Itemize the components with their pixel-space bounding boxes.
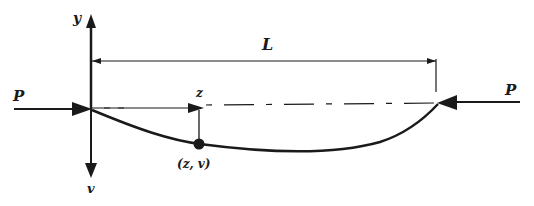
length-label: L bbox=[261, 35, 273, 54]
load-left-label: P bbox=[12, 87, 25, 105]
load-right-label: P bbox=[504, 81, 517, 99]
z-axis-arrow-icon bbox=[188, 103, 204, 113]
load-left-arrow-icon bbox=[72, 102, 92, 116]
length-arrow-right-icon bbox=[427, 58, 436, 64]
length-arrow-left-icon bbox=[92, 58, 101, 64]
deflected-column-curve bbox=[92, 104, 438, 151]
point-marker bbox=[194, 139, 205, 150]
point-label: (z, v) bbox=[177, 157, 211, 171]
v-axis-label: v bbox=[87, 181, 95, 196]
y-axis-arrow-icon bbox=[86, 14, 96, 28]
centerline-dashdot bbox=[206, 103, 436, 105]
y-axis-label: y bbox=[72, 10, 82, 26]
v-axis-arrow-icon bbox=[85, 163, 97, 178]
buckling-diagram: y v L z P P (z, v) bbox=[0, 0, 534, 206]
load-right-arrow-icon bbox=[437, 95, 457, 110]
z-axis-label: z bbox=[195, 86, 204, 100]
